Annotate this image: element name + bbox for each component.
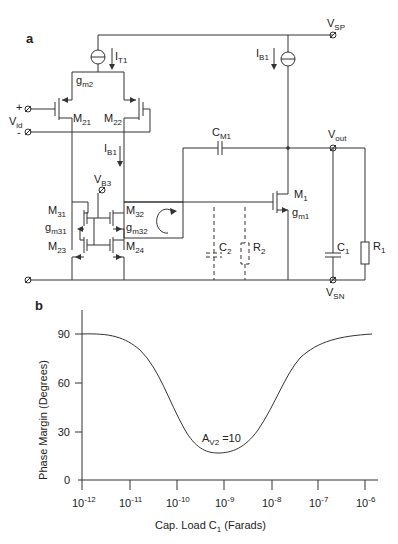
- x-tick-labels: 10-12 10-11 10-10 10-9 10-8 10-7 10-6: [72, 495, 376, 509]
- figure-canvas: a: [0, 0, 398, 544]
- label-cm1: CM1: [212, 126, 232, 141]
- svg-text:10-12: 10-12: [72, 495, 96, 509]
- label-ib1-top: IB1: [256, 47, 269, 62]
- svg-text:10-8: 10-8: [262, 495, 282, 509]
- svg-text:10-11: 10-11: [119, 495, 143, 509]
- label-m21: M21: [73, 112, 92, 127]
- circuit-labels: VSP IT1 IB1 gm2 + Vid - M21 M22 IB1 CM1 …: [9, 17, 386, 301]
- label-c1: C1: [337, 241, 350, 256]
- panel-b-label: b: [35, 298, 43, 313]
- svg-text:10-10: 10-10: [166, 495, 190, 509]
- label-vsn: VSN: [326, 286, 345, 301]
- label-m23: M23: [48, 240, 67, 255]
- label-r1: R1: [373, 240, 386, 255]
- label-minus: -: [17, 126, 21, 138]
- circuit-wiring: [30, 35, 369, 280]
- svg-text:30: 30: [58, 426, 70, 438]
- svg-text:60: 60: [58, 377, 70, 389]
- y-tick-labels: 90 60 30 0: [58, 328, 70, 486]
- arrow-icons: [62, 48, 288, 260]
- label-m31: M31: [48, 204, 67, 219]
- svg-text:10-9: 10-9: [215, 495, 235, 509]
- label-m1: M1: [294, 188, 308, 203]
- chart-axes: [75, 310, 378, 490]
- label-r2: R2: [253, 241, 266, 256]
- label-m22: M22: [104, 112, 123, 127]
- label-it1: IT1: [115, 50, 128, 65]
- label-plus: +: [16, 101, 22, 113]
- svg-text:10-7: 10-7: [309, 495, 329, 509]
- svg-text:90: 90: [58, 328, 70, 340]
- label-gm2: gm2: [76, 74, 94, 89]
- svg-text:0: 0: [64, 474, 70, 486]
- label-ib1-mid: IB1: [104, 142, 117, 157]
- label-c2: C2: [219, 241, 232, 256]
- panel-a-label: a: [26, 31, 34, 46]
- y-axis-label: Phase Margin (Degrees): [37, 360, 49, 480]
- x-axis-label: Cap. Load C1 (Farads): [155, 519, 266, 534]
- label-gm32: gm32: [126, 221, 148, 236]
- label-vsp: VSP: [327, 17, 345, 32]
- label-m24: M24: [126, 240, 145, 255]
- curve-annotation: AV2 =10: [202, 432, 241, 447]
- svg-text:10-6: 10-6: [356, 495, 376, 509]
- label-vout: Vout: [328, 128, 347, 143]
- label-m32: M32: [126, 204, 145, 219]
- label-gm1: gm1: [292, 206, 310, 221]
- current-source-it1: [91, 50, 105, 64]
- label-vb3: VB3: [94, 173, 112, 188]
- current-source-ib1: [281, 52, 295, 66]
- label-gm31: gm31: [45, 221, 67, 236]
